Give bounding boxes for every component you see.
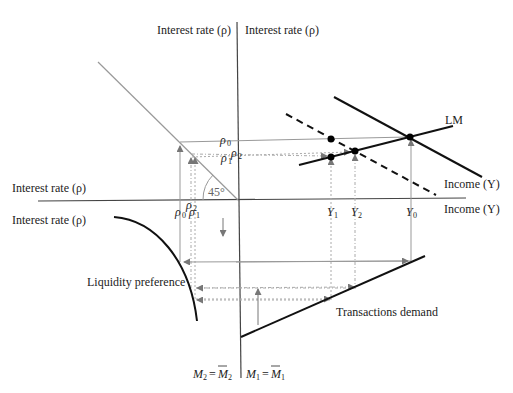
label-income-lower: Income (Y) xyxy=(444,202,500,216)
transactions-demand-line xyxy=(241,256,425,337)
svg-text:ρ: ρ xyxy=(230,146,237,160)
label-lm: LM xyxy=(445,113,463,127)
money-supply-labels: M2 = M2 M1 = M1 xyxy=(192,366,285,382)
forty-five-degree-line xyxy=(98,62,238,200)
svg-text:2: 2 xyxy=(358,211,362,220)
svg-text:ρ: ρ xyxy=(174,205,181,219)
label-top-right-axis: Interest rate (ρ) xyxy=(245,23,319,37)
income-level-labels: Y1 Y2 Y0 xyxy=(327,205,417,220)
label-left-upper-axis: Interest rate (ρ) xyxy=(12,181,86,195)
svg-text:2: 2 xyxy=(228,373,232,382)
is-curve-dashed xyxy=(286,114,436,195)
label-income-upper: Income (Y) xyxy=(444,177,500,191)
svg-text:ρ: ρ xyxy=(188,205,195,219)
liquidity-preference-curve xyxy=(114,217,197,321)
money-guides xyxy=(184,261,411,300)
svg-text:1: 1 xyxy=(281,373,285,382)
svg-text:=: = xyxy=(262,367,269,381)
svg-text:2: 2 xyxy=(203,373,207,382)
income-guides xyxy=(331,140,411,300)
label-liquidity-preference: Liquidity preference xyxy=(87,275,185,289)
rho-labels: ρ0 ρ1 ρ2 ρ0 ρ2 ρ1 xyxy=(174,133,242,220)
svg-text:ρ: ρ xyxy=(219,133,226,147)
svg-text:ρ: ρ xyxy=(220,151,227,165)
is-lm-diagram: Interest rate (ρ) Interest rate (ρ) Inte… xyxy=(0,0,513,393)
lm-curve xyxy=(299,126,453,165)
svg-text:1: 1 xyxy=(256,373,260,382)
svg-text:0: 0 xyxy=(413,211,417,220)
horizontal-axis xyxy=(38,198,466,201)
svg-text:1: 1 xyxy=(196,211,200,220)
svg-text:0: 0 xyxy=(182,211,186,220)
label-angle: 45° xyxy=(208,185,225,199)
svg-text:1: 1 xyxy=(334,211,338,220)
label-transactions-demand: Transactions demand xyxy=(336,305,438,319)
label-left-lower-axis: Interest rate (ρ) xyxy=(12,213,86,227)
svg-text:=: = xyxy=(209,367,216,381)
label-top-left-axis: Interest rate (ρ) xyxy=(157,23,231,37)
svg-text:2: 2 xyxy=(238,152,242,161)
axes xyxy=(38,22,466,378)
